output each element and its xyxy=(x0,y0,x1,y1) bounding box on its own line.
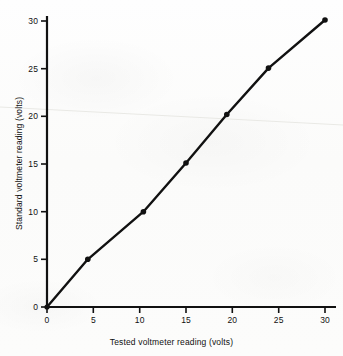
y-axis-title: Standard voltmeter reading (volts) xyxy=(14,97,24,230)
y-tick-label-0: 0 xyxy=(26,302,38,312)
data-point xyxy=(85,257,91,263)
data-point-markers xyxy=(44,17,327,309)
x-axis-title: Tested voltmeter reading (volts) xyxy=(0,337,343,347)
data-point xyxy=(224,112,230,118)
x-tick-label-5: 5 xyxy=(91,315,96,325)
y-tick-label-30: 30 xyxy=(23,16,38,26)
scan-artifact-line xyxy=(0,107,343,125)
data-point xyxy=(44,304,49,309)
data-point xyxy=(141,209,147,215)
y-tick-label-25: 25 xyxy=(23,64,38,74)
y-tick-label-10: 10 xyxy=(23,207,38,217)
x-tick-label-0: 0 xyxy=(45,315,50,325)
x-tick-label-10: 10 xyxy=(135,315,145,325)
x-tick-label-25: 25 xyxy=(274,315,284,325)
plot-area xyxy=(0,0,343,356)
y-tick-label-20: 20 xyxy=(23,111,38,121)
data-point xyxy=(322,17,328,23)
x-tick-label-15: 15 xyxy=(181,315,191,325)
data-point xyxy=(266,65,272,71)
y-tick-label-15: 15 xyxy=(23,159,38,169)
y-tick-label-5: 5 xyxy=(26,254,38,264)
data-point xyxy=(183,160,189,166)
x-tick-label-30: 30 xyxy=(320,315,330,325)
chart-figure: 0 5 10 15 20 25 30 0 5 10 15 20 25 30 Te… xyxy=(0,0,343,356)
x-tick-label-20: 20 xyxy=(227,315,237,325)
